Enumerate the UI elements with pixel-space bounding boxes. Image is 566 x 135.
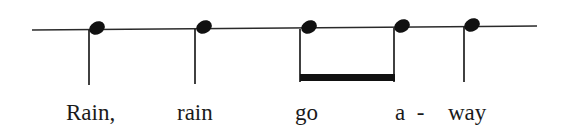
music-notation-figure: Rain, rain go a - way xyxy=(0,0,566,135)
lyric-way: way xyxy=(448,101,486,124)
eighth-note-beam xyxy=(300,74,395,81)
notehead-icon xyxy=(87,19,107,38)
note-way xyxy=(462,16,482,82)
note-rain2 xyxy=(194,18,214,84)
notes xyxy=(87,16,482,85)
lyric-a: a - xyxy=(395,101,424,124)
notehead-icon xyxy=(392,17,412,36)
note-a xyxy=(392,17,412,82)
notehead-icon xyxy=(299,18,319,37)
lyric-go: go xyxy=(295,101,318,124)
lyric-rain-2: rain xyxy=(177,101,213,124)
staff-line xyxy=(32,26,537,30)
lyric-rain-1: Rain, xyxy=(66,101,115,124)
note-rain1 xyxy=(87,19,107,85)
notehead-icon xyxy=(462,16,482,35)
note-go xyxy=(299,18,319,82)
notehead-icon xyxy=(194,18,214,37)
